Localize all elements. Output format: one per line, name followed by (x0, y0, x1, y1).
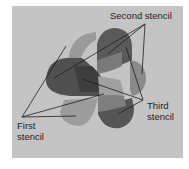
label-third-stencil: Third stencil (147, 100, 174, 122)
label-third-line2: stencil (147, 111, 174, 122)
right-lobe (130, 60, 146, 96)
stencil-diagram (0, 0, 189, 169)
label-first-stencil: First stencil (17, 120, 44, 142)
bottom-left-lobe (60, 98, 98, 126)
top-left-lobe (68, 32, 96, 62)
label-second-stencil: Second stencil (110, 10, 172, 21)
label-second-text: Second stencil (110, 10, 172, 21)
label-first-line1: First (17, 120, 44, 131)
label-third-line1: Third (147, 100, 174, 111)
label-first-line2: stencil (17, 131, 44, 142)
